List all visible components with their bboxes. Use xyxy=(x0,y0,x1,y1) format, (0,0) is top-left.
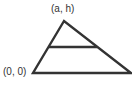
apex-label: (a, h) xyxy=(51,4,74,14)
origin-label: (0, 0) xyxy=(3,67,26,77)
